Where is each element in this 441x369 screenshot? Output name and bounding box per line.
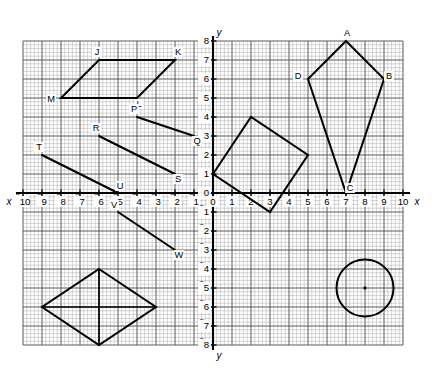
x-axis-tick-label: 4 (286, 196, 292, 207)
vertex-label-b: B (386, 71, 392, 81)
vertex-label-w: W (175, 250, 184, 260)
x-axis-tick-label: 9 (381, 196, 386, 207)
y-axis-tick-label: 4 (204, 111, 210, 122)
vertex-label-k: K (175, 47, 182, 57)
y-axis-tick-label: 1 (204, 168, 209, 179)
vertex-label-a: A (344, 28, 351, 38)
vertex-label-p: P (131, 104, 137, 114)
y-axis-name: y (216, 27, 223, 38)
x-axis-tick-label: 0 (210, 196, 215, 207)
circle-center-dot (363, 286, 366, 289)
y-axis-negative-name: y (216, 350, 223, 361)
x-axis-tick-label: 3 (267, 196, 272, 207)
y-axis-tick-label: 6 (204, 73, 209, 84)
coordinate-plane-figure: −10−9−8−7−6−5−4−3−2−10123456789108765432… (0, 0, 441, 369)
vertex-label-d: D (295, 71, 302, 81)
vertex-label-j: J (95, 47, 100, 57)
y-axis-tick-label: 2 (204, 149, 209, 160)
vertex-label-c: C (347, 183, 354, 193)
y-axis-tick-label: 5 (204, 92, 209, 103)
x-axis-tick-label: 7 (343, 196, 348, 207)
vertex-label-q: Q (193, 136, 200, 146)
vertex-label-m: M (47, 94, 55, 104)
x-axis-name: x (414, 196, 421, 207)
x-axis-tick-label: 5 (305, 196, 310, 207)
vertex-label-t: T (36, 142, 42, 152)
y-axis-tick-label: 3 (204, 130, 209, 141)
x-axis-tick-label: 6 (324, 196, 329, 207)
y-axis-tick-label: 0 (204, 187, 209, 198)
segment-pq (137, 117, 194, 136)
y-axis-tick-label: 8 (204, 35, 209, 46)
x-axis-tick-label: 8 (362, 196, 367, 207)
vertex-label-u: U (117, 181, 124, 191)
x-axis-negative-name: x (6, 196, 13, 207)
x-axis-tick-label: 1 (229, 196, 234, 207)
y-axis-tick-label: 7 (204, 54, 209, 65)
vertex-label-v: V (111, 200, 118, 210)
coordinate-plane-svg: −10−9−8−7−6−5−4−3−2−10123456789108765432… (0, 0, 441, 369)
vertex-label-s: S (175, 174, 181, 184)
x-axis-tick-label: 10 (398, 196, 409, 207)
vertex-label-r: R (93, 123, 100, 133)
